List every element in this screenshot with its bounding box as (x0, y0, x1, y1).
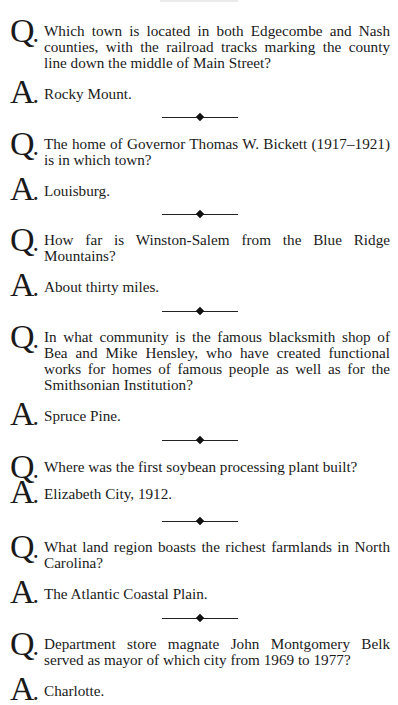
question-row: Q. The home of Governor Thomas W. Bicket… (10, 129, 390, 168)
qa-item: Q. Department store magnate John Montgom… (10, 629, 390, 699)
question-text: Department store magnate John Montgomery… (44, 629, 390, 668)
diamond-divider (162, 614, 238, 624)
qa-item: Q. How far is Winston-Salem from the Blu… (10, 225, 390, 295)
qa-item: Q. What land region boasts the richest f… (10, 532, 390, 602)
qa-item: Q. The home of Governor Thomas W. Bicket… (10, 129, 390, 199)
answer-text: About thirty miles. (44, 270, 390, 295)
answer-text: Charlotte. (44, 674, 390, 699)
a-label: A. (10, 399, 38, 434)
a-label: A. (10, 174, 38, 209)
a-label: A. (10, 477, 38, 512)
question-text: Where was the first soybean processing p… (44, 452, 390, 475)
answer-row: A. Louisburg. (10, 174, 390, 199)
answer-row: A. Rocky Mount. (10, 77, 390, 102)
a-label: A. (10, 674, 38, 705)
question-row: Q. Which town is located in both Edgecom… (10, 16, 390, 71)
answer-text: Louisburg. (44, 174, 390, 199)
diamond-icon (196, 517, 204, 525)
question-row: Q. How far is Winston-Salem from the Blu… (10, 225, 390, 264)
answer-row: A. Spruce Pine. (10, 399, 390, 424)
diamond-divider (162, 307, 238, 317)
answer-row: A. Elizabeth City, 1912. (10, 477, 390, 502)
answer-row: A. Charlotte. (10, 674, 390, 699)
q-label: Q. (10, 532, 38, 567)
q-label: Q. (10, 225, 38, 260)
answer-text: Rocky Mount. (44, 77, 390, 102)
diamond-icon (196, 307, 204, 315)
answer-text: Spruce Pine. (44, 399, 390, 424)
qa-item: Q. In what community is the famous black… (10, 322, 390, 424)
diamond-divider (162, 210, 238, 220)
qa-item: Q. Which town is located in both Edgecom… (10, 16, 390, 102)
diamond-icon (196, 614, 204, 622)
answer-text: The Atlantic Coastal Plain. (44, 577, 390, 602)
diamond-divider (162, 113, 238, 123)
q-label: Q. (10, 16, 38, 51)
question-text: How far is Winston-Salem from the Blue R… (44, 225, 390, 264)
a-label: A. (10, 577, 38, 612)
question-text: What land region boasts the richest farm… (44, 532, 390, 571)
diamond-divider (162, 436, 238, 446)
diamond-icon (196, 210, 204, 218)
question-text: Which town is located in both Edgecombe … (44, 16, 390, 71)
answer-text: Elizabeth City, 1912. (44, 477, 390, 502)
question-text: The home of Governor Thomas W. Bickett (… (44, 129, 390, 168)
question-row: Q. What land region boasts the richest f… (10, 532, 390, 571)
question-text: In what community is the famous blacksmi… (44, 322, 390, 393)
q-label: Q. (10, 629, 38, 664)
diamond-icon (196, 113, 204, 121)
question-row: Q. In what community is the famous black… (10, 322, 390, 393)
q-label: Q. (10, 129, 38, 164)
answer-row: A. About thirty miles. (10, 270, 390, 295)
a-label: A. (10, 77, 38, 112)
diamond-icon (196, 436, 204, 444)
answer-row: A. The Atlantic Coastal Plain. (10, 577, 390, 602)
cut-off-running-header (160, 0, 238, 2)
diamond-divider (162, 517, 238, 527)
a-label: A. (10, 270, 38, 305)
q-label: Q. (10, 322, 38, 357)
qa-item: Q. Where was the first soybean processin… (10, 452, 390, 502)
question-row: Q. Department store magnate John Montgom… (10, 629, 390, 668)
question-row: Q. Where was the first soybean processin… (10, 452, 390, 475)
